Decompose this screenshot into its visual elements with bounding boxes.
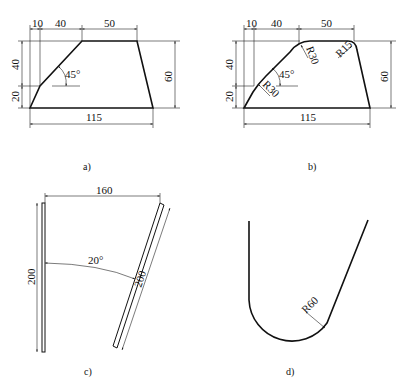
figure-c: 160 200 200 20° c)	[25, 184, 170, 378]
dim-radius-top-left: R30	[304, 45, 322, 67]
dim-top-mid: 40	[271, 17, 283, 29]
caption-a: a)	[83, 161, 91, 173]
dim-left-lower: 20	[9, 91, 21, 103]
dim-radius: R60	[299, 294, 321, 316]
vertical-bar	[42, 203, 45, 352]
dim-angle: 45°	[65, 68, 80, 80]
dim-radius-lower-left: R30	[261, 78, 283, 100]
figure-b: 10 40 50 40 20 60 115 45° R30 R30 R15 b)	[223, 17, 396, 173]
drawing-canvas: 10 40 50 40 20 60 115 45° a)	[0, 0, 406, 381]
dim-angle: 45°	[279, 68, 294, 80]
dim-top-right: 50	[321, 17, 333, 29]
dim-top-left: 10	[32, 17, 44, 29]
dim-bottom: 115	[300, 111, 317, 123]
dim-top-left: 10	[246, 17, 258, 29]
figure-d: R60 d)	[249, 220, 368, 378]
dim-bottom: 115	[86, 111, 103, 123]
dim-left-lower: 20	[223, 91, 235, 103]
caption-d: d)	[286, 366, 294, 378]
dim-right: 60	[378, 71, 390, 83]
dim-horizontal: 160	[96, 184, 113, 196]
figure-a: 10 40 50 40 20 60 115 45° a)	[9, 17, 180, 173]
trapezoid-outline	[30, 41, 153, 108]
u-curve	[249, 220, 368, 341]
dim-top-right: 50	[104, 17, 116, 29]
dim-right: 60	[162, 71, 174, 83]
dim-top-mid: 40	[55, 17, 67, 29]
dim-vertical-left: 200	[25, 268, 37, 285]
dim-left-upper: 40	[9, 59, 21, 71]
caption-b: b)	[308, 161, 316, 173]
caption-c: c)	[84, 366, 92, 378]
dim-angle: 20°	[88, 254, 103, 266]
dim-left-upper: 40	[223, 59, 235, 71]
